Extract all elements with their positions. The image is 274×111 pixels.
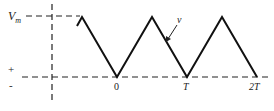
signal-arrowhead [166, 36, 171, 42]
plus-sign: + [8, 63, 14, 75]
waveform-diagram: Vm v + - 0 T 2T [0, 0, 274, 111]
signal-label: v [177, 14, 182, 25]
tick-label-T: T [183, 81, 190, 92]
minus-sign: - [9, 79, 13, 91]
vm-label: Vm [8, 9, 21, 25]
triangle-waveform [77, 17, 257, 77]
signal-arrow [168, 25, 177, 39]
tick-label-2T: 2T [249, 81, 261, 92]
tick-label-0: 0 [114, 81, 119, 92]
